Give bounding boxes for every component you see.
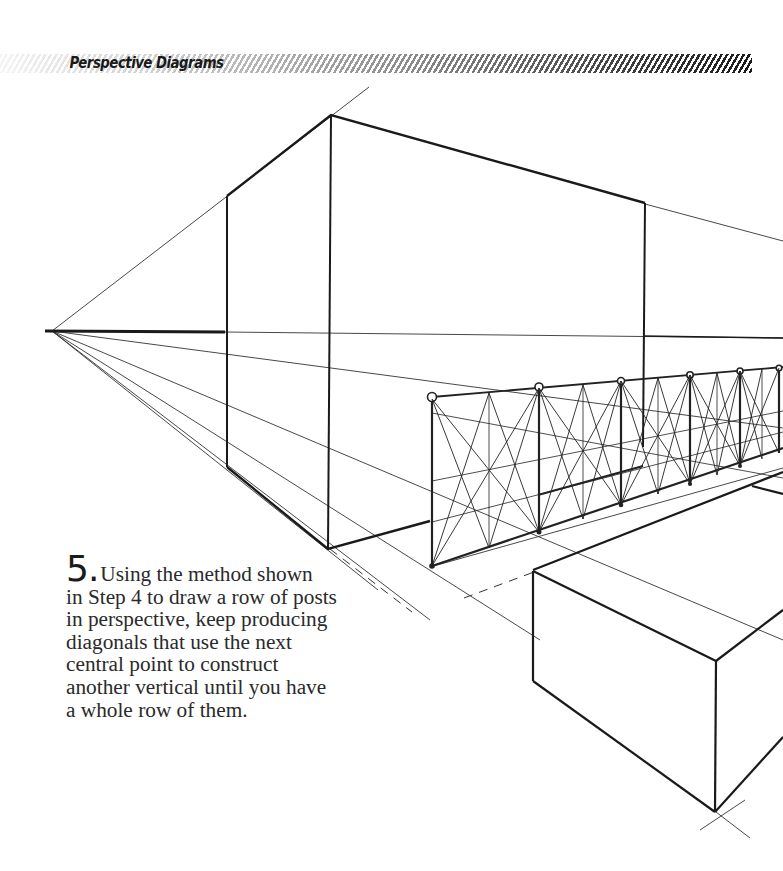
step-line-2: in Step 4 to draw a row of posts [66,586,346,609]
box [533,472,783,812]
step-first-line: 5.Using the method shown [66,554,346,586]
construction-lines [52,87,783,838]
step-instructions: 5.Using the method shown in Step 4 to dr… [66,554,346,721]
step-line-1: Using the method shown [100,562,312,586]
step-number: 5. [66,548,98,589]
step-line-4: diagonals that use the next [66,631,346,654]
step-line-7: a whole row of them. [66,699,346,722]
perspective-diagram [0,0,783,871]
fence [428,365,783,569]
step-line-6: another vertical until you have [66,676,346,699]
step-line-3: in perspective, keep producing [66,608,346,631]
post-feet [429,464,742,569]
step-line-5: central point to construct [66,653,346,676]
